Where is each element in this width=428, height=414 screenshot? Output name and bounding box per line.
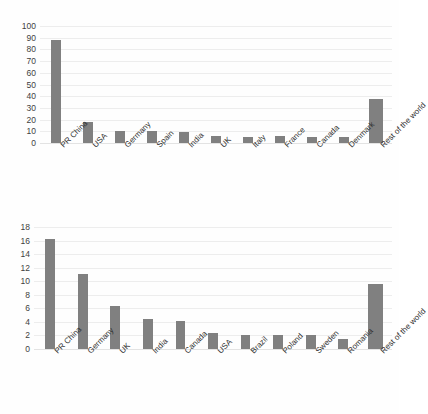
bar-chart-top: 0102030405060708090100 PR ChinaUSAGerman… (0, 0, 399, 207)
y-axis-tick-label: 90 (27, 33, 36, 42)
bar (368, 284, 383, 349)
y-axis-tick-label: 40 (27, 92, 36, 101)
y-axis-tick-label: 14 (21, 250, 30, 259)
bar (179, 132, 189, 143)
bar (115, 131, 125, 143)
bar (211, 136, 221, 143)
bar (369, 99, 384, 143)
bar (339, 137, 349, 143)
bar (307, 137, 317, 143)
y-axis-tick-label: 60 (27, 69, 36, 78)
y-axis-tick-label: 0 (25, 345, 30, 354)
bar (208, 333, 218, 349)
y-axis-tick-label: 12 (21, 263, 30, 272)
plot-area-bottom: 024681012141618 PR ChinaGermanyUKIndiaCa… (34, 227, 392, 349)
y-axis-tick-label: 18 (21, 223, 30, 232)
bar (275, 136, 285, 143)
bar (78, 274, 88, 349)
y-axis-tick-label: 0 (31, 139, 36, 148)
gridline (40, 143, 392, 144)
y-axis-tick-label: 8 (25, 291, 30, 300)
bar (273, 335, 283, 349)
y-axis-tick-label: 16 (21, 236, 30, 245)
bar (176, 321, 186, 349)
bar (45, 239, 55, 349)
y-axis-tick-label: 4 (25, 318, 30, 327)
y-axis-tick-label: 100 (22, 22, 36, 31)
bar (243, 137, 253, 143)
y-axis-tick-label: 20 (27, 115, 36, 124)
bar (147, 131, 157, 143)
bar (241, 335, 251, 349)
plot-area-top: 0102030405060708090100 PR ChinaUSAGerman… (40, 26, 392, 143)
y-axis-tick-label: 50 (27, 80, 36, 89)
bar (306, 335, 316, 349)
y-axis-tick-label: 2 (25, 331, 30, 340)
bars-top (40, 26, 392, 143)
bar-chart-bottom: 024681012141618 PR ChinaGermanyUKIndiaCa… (0, 207, 399, 414)
y-axis-tick-label: 6 (25, 304, 30, 313)
y-axis-tick-label: 10 (21, 277, 30, 286)
y-axis-tick-label: 10 (27, 127, 36, 136)
y-axis-tick-label: 80 (27, 45, 36, 54)
bar (83, 122, 93, 143)
bar (51, 40, 61, 143)
y-axis-tick-label: 30 (27, 104, 36, 113)
bars-bottom (34, 227, 392, 349)
y-axis-tick-label: 70 (27, 57, 36, 66)
gridline (34, 349, 392, 350)
bar (338, 339, 348, 349)
bar (110, 306, 120, 349)
bar (143, 319, 153, 350)
